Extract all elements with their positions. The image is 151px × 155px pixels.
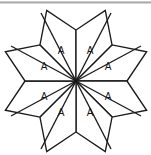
eight-pointed-star-diagram: A A A A A A A A (0, 0, 151, 155)
figure-canvas: A A A A A A A A (0, 0, 151, 155)
piece-label-east-upper: A (105, 61, 112, 72)
piece-label-west-upper: A (41, 61, 48, 72)
piece-label-south-right: A (87, 107, 94, 118)
piece-label-west-lower: A (41, 91, 48, 102)
piece-label-east-lower: A (105, 91, 112, 102)
piece-label-north-right: A (87, 45, 94, 56)
piece-label-south-left: A (58, 107, 65, 118)
piece-label-north-left: A (58, 45, 65, 56)
